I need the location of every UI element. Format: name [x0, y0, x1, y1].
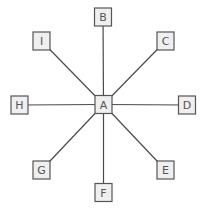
node-label: A [100, 99, 108, 112]
node-label: E [162, 164, 169, 177]
edge-a-b [103, 17, 104, 105]
node-label: D [183, 99, 191, 112]
star-diagram: ABCDEFGHI [0, 0, 208, 215]
node-label: I [40, 35, 43, 48]
edge-a-d [104, 105, 188, 106]
node-label: C [162, 35, 170, 48]
node-g: G [33, 161, 50, 179]
node-i: I [33, 32, 50, 50]
node-f: F [95, 184, 112, 202]
edge-a-g [42, 105, 104, 171]
node-c: C [157, 32, 174, 50]
edge-a-e [104, 105, 166, 171]
node-label: H [15, 99, 23, 112]
edge-a-i [42, 41, 104, 105]
node-label: F [100, 187, 106, 200]
edge-a-h [20, 105, 104, 106]
node-e: E [157, 161, 174, 179]
edge-a-c [104, 41, 166, 105]
node-a: A [95, 96, 112, 114]
node-label: B [99, 11, 107, 24]
node-d: D [179, 96, 196, 114]
node-h: H [11, 96, 28, 114]
node-label: G [37, 164, 46, 177]
node-b: B [95, 8, 112, 26]
